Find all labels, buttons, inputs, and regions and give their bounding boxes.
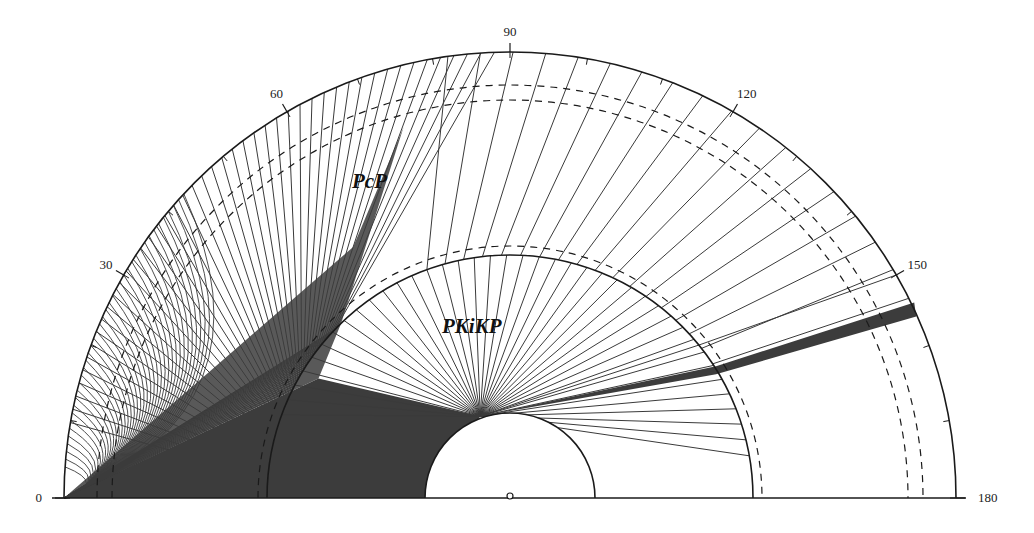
tick-label-120: 120 xyxy=(737,86,757,101)
pkikp-mantle-ray xyxy=(464,52,513,259)
minor-tick xyxy=(660,79,662,85)
minor-tick xyxy=(433,59,434,65)
pkikp-mantle-ray xyxy=(676,216,856,320)
pkikp-mantle-ray xyxy=(540,72,642,257)
pcp-label: PcP xyxy=(351,169,387,193)
pkikp-mantle-ray xyxy=(427,56,448,269)
pkikp-mantle-ray xyxy=(558,83,672,260)
minor-tick xyxy=(793,156,797,161)
pkikp-thick-band xyxy=(480,303,916,417)
minor-tick xyxy=(943,421,949,422)
pkikp-label: PKiKP xyxy=(441,314,502,338)
minor-tick xyxy=(223,156,227,161)
pkikp-mantle-ray xyxy=(661,192,834,308)
tick-label-150: 150 xyxy=(908,257,928,272)
pkikp-mantle-ray xyxy=(630,148,786,287)
pkikp-ray xyxy=(699,275,896,345)
tick-label-0: 0 xyxy=(36,490,43,505)
minor-tick xyxy=(357,79,359,85)
major-tick xyxy=(896,271,904,276)
tick-label-90: 90 xyxy=(504,24,517,39)
pkikp-mantle-ray xyxy=(613,128,760,278)
major-tick xyxy=(283,104,288,112)
pkikp-mantle-ray xyxy=(482,53,545,256)
tick-label-60: 60 xyxy=(270,86,283,101)
center-marker-icon xyxy=(507,493,513,499)
pkikp-ray xyxy=(480,327,683,416)
tick-label-180: 180 xyxy=(978,490,998,505)
minor-tick xyxy=(923,345,929,347)
tick-label-30: 30 xyxy=(99,257,112,272)
major-tick xyxy=(733,104,738,112)
pkikp-ray xyxy=(480,268,587,417)
pkikp-mantle-ray xyxy=(701,270,893,349)
major-tick xyxy=(116,271,124,276)
pkikp-mantle-ray xyxy=(646,169,811,297)
minor-tick xyxy=(586,59,587,65)
pkikp-mantle-ray xyxy=(445,53,480,264)
ray-path-diagram: 0306090120150180 PcP PKiKP xyxy=(0,0,1034,533)
pkikp-mantle-ray xyxy=(577,96,703,265)
minor-tick xyxy=(847,211,852,215)
